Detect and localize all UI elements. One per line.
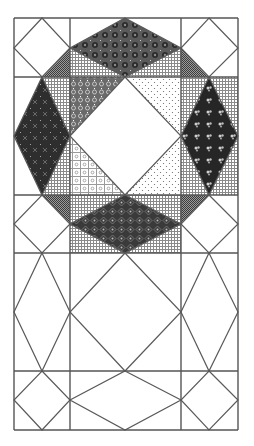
- bottom-right-small-diamond: [181, 371, 238, 430]
- fabric-fills: [14, 18, 238, 253]
- quilt-diagram: [0, 0, 254, 446]
- lower-right-tall-diamond: [181, 253, 238, 371]
- bottom-left-small-diamond: [14, 371, 70, 430]
- lower-left-tall-diamond: [14, 253, 70, 371]
- lower-center-diamond: [70, 253, 181, 371]
- bottom-center-flat-diamond: [70, 371, 181, 430]
